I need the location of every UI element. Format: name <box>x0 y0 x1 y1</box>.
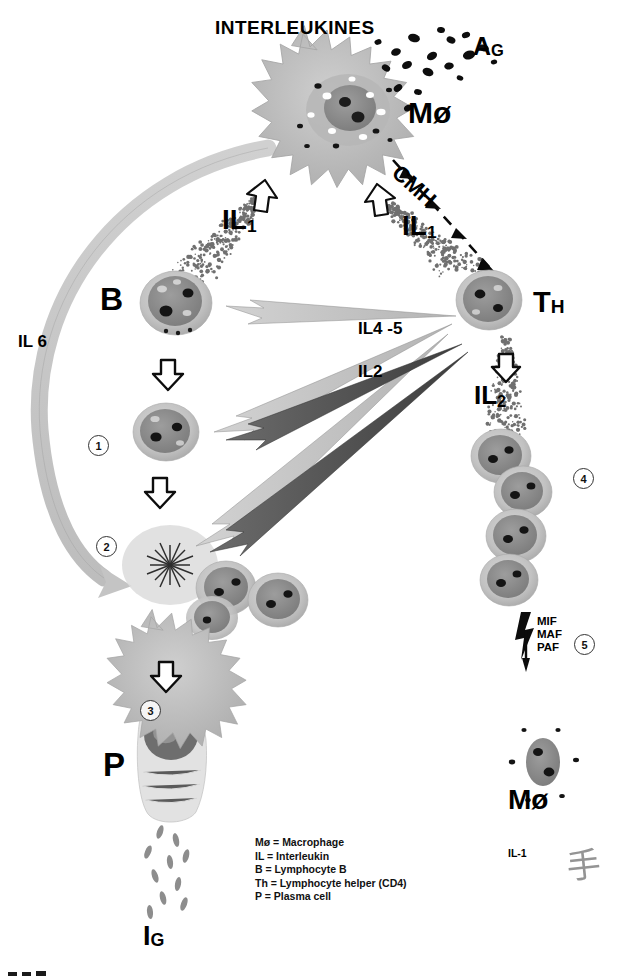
crop-mark <box>8 972 17 976</box>
step-number-1: 1 <box>88 435 109 456</box>
plasma-cell-label: P <box>103 748 125 781</box>
legend-item: B = Lymphocyte B <box>255 863 407 877</box>
step-number-2: 2 <box>96 536 117 557</box>
legend-item: P = Plasma cell <box>255 890 407 904</box>
il2-center-label: IL2 <box>358 363 383 380</box>
legend-item: Th = Lymphocyte helper (CD4) <box>255 877 407 891</box>
lightning-bolt-arrow <box>515 612 534 672</box>
il1-right-label: IL1 <box>402 212 437 240</box>
b-cell-label: B <box>100 283 123 315</box>
il1-left-text: IL <box>222 204 247 235</box>
il1-left-label: IL1 <box>222 206 257 234</box>
b-differentiation-arrow-1 <box>150 358 186 392</box>
signature: 手 <box>564 836 603 888</box>
il45-label: IL4 -5 <box>358 320 402 337</box>
maf-label: MAF <box>537 629 562 641</box>
antigen-subscript: G <box>491 41 504 59</box>
t-helper-cell <box>456 270 522 330</box>
crop-mark <box>22 972 31 976</box>
paf-label: PAF <box>537 642 559 654</box>
diagram-canvas: INTERLEUKINES AG Mø CMH IL1 IL1 IL 6 B T… <box>0 0 621 978</box>
t-helper-label: TH <box>533 288 565 317</box>
step-number-3: 3 <box>140 700 161 721</box>
il1-right-subscript: 1 <box>427 222 437 242</box>
legend: Mø = Macrophage IL = Interleukin B = Lym… <box>255 836 407 904</box>
il1-bottom-label: IL-1 <box>508 848 527 859</box>
ig-subscript: G <box>151 930 165 950</box>
ig-particles <box>143 824 191 919</box>
plasma-differentiation-arrow <box>148 660 184 694</box>
crop-mark <box>36 971 46 976</box>
diagram-title: INTERLEUKINES <box>215 18 375 37</box>
macrophage-top-cell <box>252 26 414 188</box>
t-helper-letter: T <box>533 286 551 318</box>
t-clone-chain <box>471 429 552 606</box>
legend-item: IL = Interleukin <box>255 850 407 864</box>
macrophage-bottom-label: Mø <box>508 786 548 814</box>
step-number-5: 5 <box>574 634 595 655</box>
mif-label: MIF <box>537 616 557 628</box>
legend-item: Mø = Macrophage <box>255 836 407 850</box>
ig-label: IG <box>143 923 164 950</box>
il2-right-subscript: 2 <box>497 392 506 410</box>
il6-label: IL 6 <box>18 333 47 350</box>
il2-right-label: IL2 <box>474 382 506 408</box>
b-differentiation-arrow-2 <box>142 476 178 510</box>
b-lymphocyte-cell <box>140 271 212 335</box>
b-activated-cell <box>133 403 199 461</box>
il1-left-subscript: 1 <box>247 216 257 236</box>
il1-right-block-arrow <box>363 182 399 220</box>
ig-letter: I <box>143 921 151 951</box>
il45-arrows <box>196 300 456 548</box>
macrophage-top-label: Mø <box>408 98 451 128</box>
diagram-artwork <box>0 0 621 978</box>
il2-right-text: IL <box>474 380 497 410</box>
antigen-letter: A <box>473 32 491 60</box>
t-helper-subscript: H <box>551 296 565 317</box>
antigen-label: AG <box>473 34 504 59</box>
il1-right-text: IL <box>402 210 427 241</box>
step-number-4: 4 <box>573 468 594 489</box>
